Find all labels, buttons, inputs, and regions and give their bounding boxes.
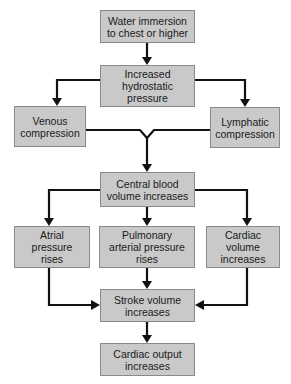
arrowhead-right-icon (91, 300, 100, 310)
node-atrial-pressure: Atrial pressure rises (14, 226, 90, 268)
arrowhead-down-icon (52, 98, 62, 106)
node-cardiac-volume: Cardiac volume increases (206, 226, 280, 268)
arrowhead-down-icon (242, 218, 252, 226)
arrowhead-down-icon (142, 218, 152, 226)
node-label: Increased hydrostatic pressure (122, 68, 173, 104)
node-pulmonary-arterial-pressure: Pulmonary arterial pressure rises (99, 226, 195, 268)
connector-venous-to-junction (86, 130, 147, 138)
arrowhead-down-icon (142, 335, 152, 343)
node-increased-hydrostatic-pressure: Increased hydrostatic pressure (100, 65, 195, 107)
arrowhead-left-icon (195, 300, 204, 310)
node-label: Water immersion to chest or higher (107, 15, 188, 39)
arrow-central-to-cardiac-volume (195, 190, 247, 219)
node-label: Cardiac output increases (113, 348, 181, 372)
node-central-blood-volume: Central blood volume increases (100, 172, 195, 207)
arrow-cardiac-volume-to-stroke (203, 268, 247, 305)
arrow-hydrostatic-to-venous (57, 80, 100, 99)
node-stroke-volume: Stroke volume increases (100, 289, 195, 322)
arrowhead-down-icon (44, 218, 54, 226)
arrowhead-down-icon (142, 57, 152, 65)
node-venous-compression: Venous compression (14, 106, 86, 147)
node-water-immersion: Water immersion to chest or higher (100, 10, 195, 43)
arrow-atrial-to-stroke (49, 268, 92, 305)
node-label: Atrial pressure rises (32, 229, 73, 265)
node-cardiac-output: Cardiac output increases (100, 343, 195, 376)
node-label: Pulmonary arterial pressure rises (109, 229, 185, 265)
arrowhead-down-icon (142, 164, 152, 172)
node-label: Venous compression (20, 115, 80, 139)
arrow-hydrostatic-to-lymphatic (195, 80, 245, 100)
node-label: Lymphatic compression (215, 116, 275, 140)
node-lymphatic-compression: Lymphatic compression (210, 107, 280, 148)
arrow-central-to-atrial (49, 190, 100, 219)
node-label: Stroke volume increases (114, 294, 181, 318)
node-label: Central blood volume increases (107, 178, 189, 202)
arrowhead-down-icon (240, 99, 250, 107)
connector-lymphatic-to-junction (147, 130, 210, 138)
node-label: Cardiac volume increases (221, 229, 266, 265)
arrowhead-down-icon (142, 281, 152, 289)
